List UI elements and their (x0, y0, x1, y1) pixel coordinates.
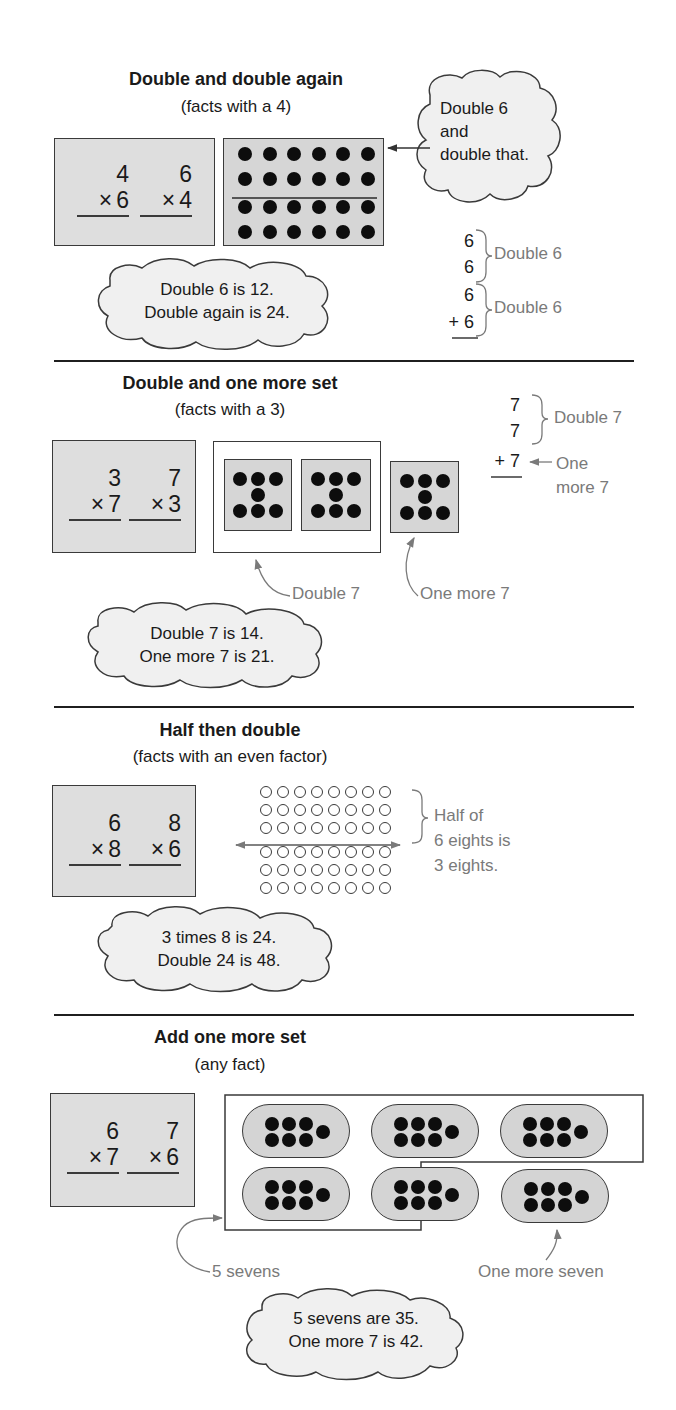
addend: 7 (494, 394, 520, 416)
open-dot-icon (294, 786, 306, 798)
times-icon: × (99, 187, 112, 213)
times-icon: × (91, 491, 104, 517)
dot-icon (265, 1180, 279, 1194)
open-dot-icon (345, 786, 357, 798)
dot-icon (287, 172, 301, 186)
fact-card: 3 ×7 7 ×3 (52, 440, 196, 553)
dot-icon (523, 1133, 537, 1147)
dot-icon (557, 1117, 571, 1131)
dot-icon (411, 1133, 425, 1147)
open-dot-icon (311, 846, 323, 858)
dot-icon (523, 1117, 537, 1131)
fact-top: 6 (67, 1118, 119, 1144)
section-title: Double and one more set (110, 373, 350, 394)
dot-icon (233, 472, 247, 486)
dot-icon (251, 488, 265, 502)
fact-bottom: ×7 (69, 491, 121, 521)
fact-problem: 7 ×6 (127, 1118, 179, 1174)
dot-icon (269, 504, 283, 518)
open-dot-icon (362, 846, 374, 858)
dot-icon (299, 1117, 313, 1131)
fact-card: 4 ×6 6 ×4 (54, 138, 215, 246)
dot-icon (299, 1133, 313, 1147)
callout-label: Double 7 (292, 584, 360, 604)
open-dot-icon (311, 864, 323, 876)
open-dot-icon (345, 846, 357, 858)
times-icon: × (89, 1144, 102, 1170)
open-dot-icon (311, 786, 323, 798)
dot-icon (269, 472, 283, 486)
dot-icon (418, 490, 432, 504)
dot-icon (329, 504, 343, 518)
dot-icon (411, 1117, 425, 1131)
seven-dot-set (390, 461, 459, 533)
times-icon: × (162, 187, 175, 213)
addend: 7 (494, 420, 520, 442)
callout-label: 5 sevens (212, 1262, 280, 1282)
result-cloud-text: 3 times 8 is 24. Double 24 is 48. (112, 926, 326, 972)
dot-icon (238, 225, 252, 239)
dot-icon (251, 472, 265, 486)
dot-icon (558, 1182, 572, 1196)
seven-dot-set (242, 1104, 350, 1158)
dot-icon (282, 1117, 296, 1131)
dot-icon (411, 1196, 425, 1210)
dot-icon (524, 1182, 538, 1196)
dot-icon (316, 1125, 330, 1139)
dot-icon (400, 474, 414, 488)
section-subtitle: (facts with a 3) (110, 400, 350, 420)
open-dot-icon (294, 804, 306, 816)
dot-icon (329, 488, 343, 502)
open-dot-icon (379, 882, 391, 894)
dot-icon (361, 172, 375, 186)
section-title: Add one more set (130, 1027, 330, 1048)
seven-dot-set (371, 1167, 479, 1221)
dot-icon (311, 504, 325, 518)
fact-problem: 3 ×7 (69, 465, 121, 521)
open-dot-icon (311, 822, 323, 834)
dot-icon (282, 1133, 296, 1147)
fact-bottom: ×7 (67, 1144, 119, 1174)
result-cloud-text: Double 6 is 12. Double again is 24. (112, 278, 322, 324)
brace-label: Double 6 (494, 298, 562, 318)
fact-card: 6 ×7 7 ×6 (50, 1093, 195, 1207)
dot-icon (299, 1196, 313, 1210)
open-dot-icon (260, 882, 272, 894)
dot-icon (418, 506, 432, 520)
dot-icon (263, 200, 277, 214)
section-title: Double and double again (120, 69, 352, 90)
brace-icon (476, 230, 492, 282)
open-dot-icon (277, 804, 289, 816)
dot-icon (436, 506, 450, 520)
fact-problem: 6 ×4 (140, 161, 192, 217)
dot-icon (265, 1196, 279, 1210)
addend: + 7 (488, 450, 520, 472)
fact-problem: 7 ×3 (129, 465, 181, 521)
section-subtitle: (any fact) (130, 1055, 330, 1075)
open-dot-icon (345, 882, 357, 894)
dot-icon (541, 1182, 555, 1196)
addend: 6 (448, 284, 474, 306)
fact-top: 4 (77, 161, 129, 187)
dot-icon (347, 472, 361, 486)
brace-label: Half of 6 eights is 3 eights. (434, 803, 511, 878)
dot-icon (287, 147, 301, 161)
dot-icon (541, 1198, 555, 1212)
open-dot-icon (345, 864, 357, 876)
dot-icon (265, 1133, 279, 1147)
open-dot-icon (277, 786, 289, 798)
brace-label: Double 7 (554, 408, 622, 428)
open-dot-icon (379, 846, 391, 858)
times-icon: × (151, 491, 164, 517)
dot-icon (445, 1188, 459, 1202)
open-dot-icon (328, 864, 340, 876)
open-dot-icon (311, 882, 323, 894)
seven-dot-set (501, 1169, 609, 1223)
fact-top: 6 (69, 810, 121, 836)
dot-icon (540, 1133, 554, 1147)
open-dot-icon (379, 864, 391, 876)
hint-cloud-text: Double 6 and double that. (440, 97, 529, 166)
fact-bottom: ×6 (77, 187, 129, 217)
dot-icon (311, 472, 325, 486)
fact-problem: 6 ×8 (69, 810, 121, 866)
